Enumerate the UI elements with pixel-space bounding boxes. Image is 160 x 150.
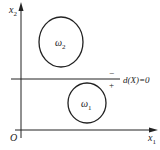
x-axis-label: x1 [147, 132, 156, 146]
boundary-label: d(X)=0 [123, 75, 150, 85]
region-omega-1-label: ω1 [81, 98, 92, 112]
y-axis-arrow-icon [19, 2, 24, 11]
decision-boundary-diagram: x2 x1 O − + d(X)=0 ω2 ω1 [0, 0, 160, 150]
region-omega-2-label: ω2 [55, 37, 66, 51]
positive-side-sign: + [109, 80, 114, 90]
y-axis-label: x2 [8, 4, 17, 18]
negative-side-sign: − [109, 68, 114, 78]
origin-label: O [10, 132, 17, 143]
